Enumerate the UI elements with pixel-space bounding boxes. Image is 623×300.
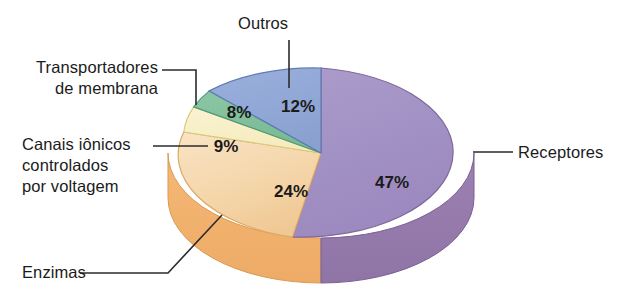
callout-label-transportadores: Transportadores de membrana bbox=[0, 57, 158, 99]
leader-line-transportadores bbox=[162, 70, 196, 105]
slice-value-outros: 12% bbox=[281, 97, 315, 116]
slice-value-enzimas: 24% bbox=[274, 182, 308, 201]
callout-label-canais: Canais iônicos controlados por voltagem bbox=[22, 134, 131, 197]
callout-label-outros: Outros bbox=[238, 13, 288, 34]
pie-chart-figure: 47% 24% 9% 8% 12% Outros Transportadores… bbox=[0, 0, 623, 300]
slice-value-canais: 9% bbox=[214, 137, 239, 156]
slice-value-transportadores: 8% bbox=[227, 103, 252, 122]
callout-label-receptores: Receptores bbox=[518, 142, 603, 163]
slice-value-receptores: 47% bbox=[375, 173, 409, 192]
callout-label-enzimas: Enzimas bbox=[22, 262, 86, 283]
